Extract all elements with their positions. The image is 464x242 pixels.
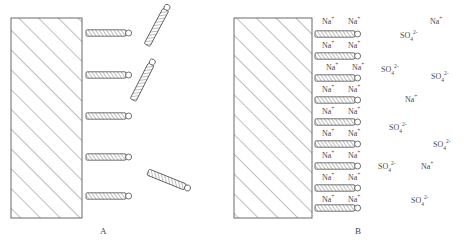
ion-label-na: Na+ <box>348 196 360 204</box>
rod-A-free0 <box>144 3 171 46</box>
rod-body <box>86 30 126 36</box>
rod-A-free2 <box>147 169 192 192</box>
rod-head <box>355 119 361 125</box>
rod-body <box>86 154 126 160</box>
ion-label-na: Na+ <box>322 108 334 116</box>
ion-label-na: Na+ <box>322 42 334 50</box>
rod-body <box>86 72 126 78</box>
rod-B-4 <box>315 119 361 125</box>
rod-head <box>355 205 361 211</box>
rod-head <box>126 72 132 78</box>
rod-B-5 <box>315 141 361 147</box>
ion-label-na: Na+ <box>405 96 417 104</box>
figure-vector-layer <box>0 0 464 242</box>
rod-body <box>144 8 168 46</box>
ion-label-na: Na+ <box>322 152 334 160</box>
rod-head <box>355 53 361 59</box>
ion-label-so4: SO42- <box>433 141 451 149</box>
ion-label-na: Na+ <box>322 174 334 182</box>
ion-label-na: Na+ <box>348 108 360 116</box>
rod-A-4 <box>86 193 132 199</box>
ion-label-so4: SO42- <box>400 32 418 40</box>
rod-B-6 <box>315 163 361 169</box>
ion-label-na: Na+ <box>322 130 334 138</box>
rod-body <box>315 141 355 147</box>
ion-label-so4: SO42- <box>381 66 399 74</box>
ion-label-na: Na+ <box>430 18 442 26</box>
rod-A-1 <box>86 72 132 78</box>
rod-body <box>147 169 186 190</box>
rod-head <box>355 97 361 103</box>
rod-head <box>355 31 361 37</box>
rod-body <box>315 119 355 125</box>
rod-head <box>126 30 132 36</box>
ion-label-na: Na+ <box>322 196 334 204</box>
ion-label-na: Na+ <box>348 174 360 182</box>
hatched-block-B <box>234 18 312 218</box>
rod-body <box>315 53 355 59</box>
rod-head <box>355 75 361 81</box>
rod-B-0 <box>315 31 361 37</box>
ion-label-so4: SO42- <box>431 73 449 81</box>
ion-label-so4: SO42- <box>389 124 407 132</box>
rod-body <box>315 185 355 191</box>
ion-label-na: Na+ <box>322 18 334 26</box>
hatched-block-fill-A <box>11 18 82 218</box>
panel-label-B: B <box>355 226 361 236</box>
rod-A-0 <box>86 30 132 36</box>
ion-label-so4: SO42- <box>411 197 429 205</box>
rod-body <box>130 63 154 102</box>
rod-head <box>126 154 132 160</box>
rod-head <box>355 185 361 191</box>
ion-label-na: Na+ <box>421 163 433 171</box>
rod-body <box>315 75 355 81</box>
rod-body <box>315 31 355 37</box>
figure-canvas: Na+Na+Na+SO42-Na+Na+Na+Na+SO42-SO42-Na+N… <box>0 0 464 242</box>
ion-label-na: Na+ <box>348 130 360 138</box>
rod-body <box>86 113 126 119</box>
rod-head <box>355 163 361 169</box>
rod-A-free1 <box>130 58 156 102</box>
rod-body <box>315 205 355 211</box>
rod-head <box>126 113 132 119</box>
rod-B-1 <box>315 53 361 59</box>
ion-label-na: Na+ <box>348 18 360 26</box>
rod-B-7 <box>315 185 361 191</box>
ion-label-na: Na+ <box>352 64 364 72</box>
rod-A-3 <box>86 154 132 160</box>
rod-B-2 <box>315 75 361 81</box>
ion-label-na: Na+ <box>326 64 338 72</box>
rod-A-2 <box>86 113 132 119</box>
rod-head <box>355 141 361 147</box>
rod-B-3 <box>315 97 361 103</box>
ion-label-na: Na+ <box>322 86 334 94</box>
rod-body <box>315 163 355 169</box>
hatched-block-A <box>11 18 82 218</box>
rod-body <box>315 97 355 103</box>
rod-B-8 <box>315 205 361 211</box>
ion-label-na: Na+ <box>348 42 360 50</box>
panel-label-A: A <box>100 226 107 236</box>
ion-label-so4: SO42- <box>378 163 396 171</box>
ion-label-na: Na+ <box>348 152 360 160</box>
rod-head <box>126 193 132 199</box>
ion-label-na: Na+ <box>348 86 360 94</box>
hatched-block-fill-B <box>234 18 312 218</box>
rod-body <box>86 193 126 199</box>
